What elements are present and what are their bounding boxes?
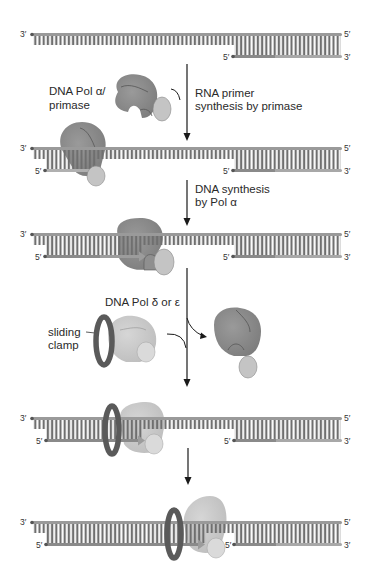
stage-2-primer-synthesis: 3′ 5′ 5′ 5′ 3′ xyxy=(20,122,351,186)
binding-arrow xyxy=(171,89,180,100)
stage-3-pol-alpha-extension: 3′ 5′ 5′ 5′ 3′ xyxy=(20,218,351,275)
svg-text:5′: 5′ xyxy=(35,166,42,176)
stage-4-pol-delta-loading: 3′ 5′ 5′ 5′ 3′ xyxy=(20,402,351,454)
arrow-head-icon xyxy=(184,379,191,387)
stage-1-template: 3′ 5′ 5′ 3′ xyxy=(20,29,351,62)
svg-text:5′: 5′ xyxy=(344,517,351,527)
pol-delta-label: DNA Pol δ or ε xyxy=(105,296,180,308)
svg-text:3′: 3′ xyxy=(344,540,351,550)
sliding-clamp xyxy=(96,317,112,365)
svg-text:3′: 3′ xyxy=(344,436,351,446)
pol-alpha-label: DNA Pol α/ xyxy=(49,85,106,97)
template-strand xyxy=(32,147,342,150)
stage-5-fragment-completion: 3′ 5′ 5′ 5′ 3′ xyxy=(20,496,351,558)
arrow-head-icon xyxy=(185,477,192,485)
svg-text:5′: 5′ xyxy=(36,436,43,446)
clamp-label: sliding xyxy=(48,326,81,338)
svg-text:5′: 5′ xyxy=(223,166,230,176)
svg-text:5′: 5′ xyxy=(36,540,43,550)
svg-text:3′: 3′ xyxy=(20,143,27,153)
svg-text:5′: 5′ xyxy=(344,229,351,239)
arrow-head-icon xyxy=(184,133,191,141)
svg-text:5′: 5′ xyxy=(344,413,351,423)
svg-text:5′: 5′ xyxy=(223,252,230,262)
svg-text:5′: 5′ xyxy=(224,436,231,446)
svg-text:3′: 3′ xyxy=(20,517,27,527)
template-strand xyxy=(32,417,342,420)
end-label: 5′ xyxy=(344,29,351,39)
release-arrow xyxy=(187,318,203,336)
end-label: 3′ xyxy=(20,29,27,39)
rna-primer xyxy=(45,169,95,172)
primase-subunit xyxy=(87,166,105,186)
step1-label: synthesis by primase xyxy=(195,100,302,112)
arrow-head-icon xyxy=(200,333,207,340)
leader-line xyxy=(86,332,95,333)
pol-alpha-label: primase xyxy=(49,99,90,111)
pol-delta-with-clamp xyxy=(96,316,156,365)
primer-with-dna xyxy=(46,439,142,442)
primase-subunit xyxy=(154,249,174,275)
pol-alpha-primase-free xyxy=(115,74,171,121)
svg-text:5′: 5′ xyxy=(225,540,232,550)
svg-text:3′: 3′ xyxy=(344,252,351,262)
template-strand xyxy=(32,233,342,236)
template-strand xyxy=(32,33,342,36)
template-strand xyxy=(32,521,342,524)
end-label: 5′ xyxy=(223,52,230,62)
base-pairs-top xyxy=(33,150,341,159)
svg-text:3′: 3′ xyxy=(20,229,27,239)
step1-label: RNA primer xyxy=(195,87,255,99)
step2-label: DNA synthesis xyxy=(195,183,270,195)
base-pairs-bottom xyxy=(234,45,341,55)
rna-primer xyxy=(45,255,100,258)
pol-alpha-primase-released xyxy=(214,308,261,378)
binding-arrow xyxy=(167,334,186,348)
dna-replication-diagram: 3′ 5′ 5′ 3′ RNA primer synthesis by prim… xyxy=(0,0,373,576)
end-label: 3′ xyxy=(344,52,351,62)
svg-text:5′: 5′ xyxy=(344,143,351,153)
svg-text:3′: 3′ xyxy=(344,166,351,176)
step2-label: by Pol α xyxy=(195,196,237,208)
svg-text:5′: 5′ xyxy=(35,252,42,262)
svg-text:3′: 3′ xyxy=(20,413,27,423)
base-pairs-top xyxy=(33,36,341,45)
arrow-head-icon xyxy=(184,218,191,226)
clamp-label: clamp xyxy=(48,339,79,351)
new-dna xyxy=(100,255,140,258)
